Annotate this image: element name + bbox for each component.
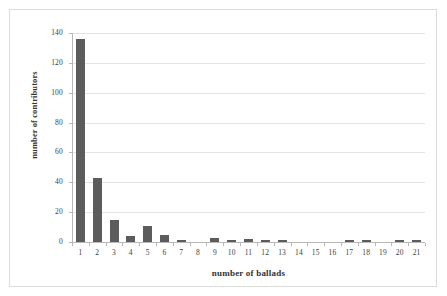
gridline bbox=[72, 182, 425, 183]
x-ticklabel: 17 bbox=[340, 248, 358, 257]
x-tickmark bbox=[173, 243, 174, 246]
x-tickmark bbox=[341, 243, 342, 246]
y-tickmark bbox=[69, 93, 72, 94]
x-ticklabel: 10 bbox=[223, 248, 241, 257]
x-tickmark bbox=[425, 243, 426, 246]
x-ticklabel: 21 bbox=[408, 248, 426, 257]
x-tickmark bbox=[223, 243, 224, 246]
bar bbox=[143, 226, 152, 242]
x-ticklabel: 15 bbox=[307, 248, 325, 257]
gridline bbox=[72, 212, 425, 213]
x-tickmark bbox=[89, 243, 90, 246]
x-ticklabel: 8 bbox=[189, 248, 207, 257]
bar bbox=[160, 235, 169, 242]
x-ticklabel: 11 bbox=[240, 248, 258, 257]
x-axis-tickmarks bbox=[72, 243, 425, 247]
x-ticklabel: 9 bbox=[206, 248, 224, 257]
x-tickmark bbox=[106, 243, 107, 246]
x-axis-title: number of ballads bbox=[72, 268, 425, 278]
x-ticklabel: 7 bbox=[172, 248, 190, 257]
y-axis-ticklabels: 020406080100120140 bbox=[10, 10, 72, 250]
x-tickmark bbox=[190, 243, 191, 246]
x-tickmark bbox=[408, 243, 409, 246]
bar-chart-figure: 020406080100120140 number of contributor… bbox=[0, 0, 447, 296]
y-tickmark bbox=[69, 212, 72, 213]
y-tickmark bbox=[69, 33, 72, 34]
x-ticklabel: 6 bbox=[155, 248, 173, 257]
x-axis-ticklabels: 123456789101112131415161718192021 bbox=[72, 248, 425, 262]
y-tickmark bbox=[69, 123, 72, 124]
x-ticklabel: 14 bbox=[290, 248, 308, 257]
x-tickmark bbox=[391, 243, 392, 246]
bar bbox=[93, 178, 102, 242]
y-axis-title: number of contributors bbox=[29, 25, 39, 205]
gridline bbox=[72, 152, 425, 153]
x-tickmark bbox=[122, 243, 123, 246]
y-tickmark bbox=[69, 182, 72, 183]
x-ticklabel: 18 bbox=[357, 248, 375, 257]
gridline bbox=[72, 93, 425, 94]
y-axis-line bbox=[72, 33, 73, 243]
x-tickmark bbox=[274, 243, 275, 246]
x-tickmark bbox=[156, 243, 157, 246]
x-ticklabel: 1 bbox=[71, 248, 89, 257]
x-ticklabel: 4 bbox=[122, 248, 140, 257]
x-ticklabel: 19 bbox=[374, 248, 392, 257]
x-tickmark bbox=[291, 243, 292, 246]
y-ticklabel: 0 bbox=[23, 238, 63, 246]
x-tickmark bbox=[240, 243, 241, 246]
y-tickmark bbox=[69, 152, 72, 153]
x-tickmark bbox=[358, 243, 359, 246]
x-ticklabel: 12 bbox=[256, 248, 274, 257]
bar bbox=[110, 220, 119, 242]
x-tickmark bbox=[72, 243, 73, 246]
x-tickmark bbox=[324, 243, 325, 246]
x-ticklabel: 3 bbox=[105, 248, 123, 257]
x-tickmark bbox=[139, 243, 140, 246]
x-ticklabel: 16 bbox=[324, 248, 342, 257]
gridline bbox=[72, 63, 425, 64]
y-tickmark bbox=[69, 63, 72, 64]
x-tickmark bbox=[206, 243, 207, 246]
gridline bbox=[72, 123, 425, 124]
x-ticklabel: 2 bbox=[88, 248, 106, 257]
x-ticklabel: 13 bbox=[273, 248, 291, 257]
gridline bbox=[72, 33, 425, 34]
bar bbox=[76, 39, 85, 242]
chart-frame: 020406080100120140 number of contributor… bbox=[9, 9, 437, 287]
x-tickmark bbox=[257, 243, 258, 246]
x-tickmark bbox=[375, 243, 376, 246]
y-ticklabel: 20 bbox=[23, 208, 63, 216]
plot-area bbox=[72, 33, 425, 242]
x-ticklabel: 20 bbox=[391, 248, 409, 257]
x-ticklabel: 5 bbox=[139, 248, 157, 257]
x-tickmark bbox=[307, 243, 308, 246]
